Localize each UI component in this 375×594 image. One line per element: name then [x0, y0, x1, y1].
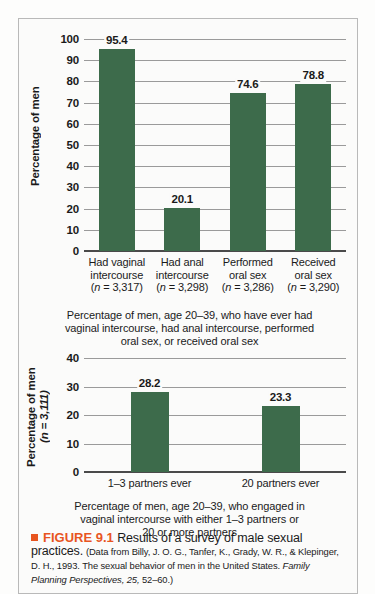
chart-bar	[230, 93, 266, 251]
chart-bar-value-label: 23.3	[268, 391, 294, 404]
chart-bar	[164, 208, 200, 251]
chart-y-tick-label: 40	[67, 352, 79, 364]
chart-y-tick-label: 20	[67, 203, 79, 215]
chart-bar-value-label: 95.4	[104, 34, 130, 47]
chart-y-tick-label: 10	[67, 224, 79, 236]
chart-y-tick-label: 50	[67, 139, 79, 151]
chart-gridline	[84, 415, 346, 416]
chart-bar-value-label: 28.2	[137, 377, 163, 390]
chart-bottom-plot-area: 01020304028.21–3 partners ever23.320 par…	[84, 358, 346, 472]
chart-y-tick-label: 30	[67, 181, 79, 193]
figure-inner: Percentage of men 0102030405060708090100…	[19, 19, 357, 593]
figure-source-suffix: 52–60.)	[139, 574, 173, 585]
figure-label: FIGURE 9.1	[43, 530, 114, 545]
chart-bar-value-label: 74.6	[235, 78, 261, 91]
chart-category-label: 20 partners ever	[242, 477, 320, 490]
chart-bar-value-label: 20.1	[169, 193, 195, 206]
chart-x-axis-line	[84, 471, 346, 473]
chart-y-tick-label: 0	[73, 245, 79, 257]
chart-caption-line: Percentage of men, age 20–39, who have e…	[37, 309, 342, 322]
chart-bar	[99, 49, 135, 251]
chart-caption-line: oral sex, or received oral sex	[37, 335, 342, 348]
chart-category-label: Had analintercourse(n = 3,298)	[156, 256, 209, 294]
chart-top-caption: Percentage of men, age 20–39, who have e…	[37, 309, 342, 348]
chart-y-tick-label: 100	[60, 33, 79, 45]
chart-bar	[262, 406, 300, 472]
chart-y-tick-label: 40	[67, 160, 79, 172]
chart-y-tick-label: 90	[67, 54, 79, 66]
chart-top-y-axis-label: Percentage of men	[29, 39, 42, 234]
chart-category-label: Performedoral sex(n = 3,286)	[222, 256, 274, 294]
chart-caption-line: vaginal intercourse with either 1–3 part…	[37, 513, 342, 526]
chart-y-tick-label: 60	[67, 118, 79, 130]
chart-bar	[131, 392, 169, 472]
figure-frame: Percentage of men 0102030405060708090100…	[18, 18, 358, 594]
chart-bar	[295, 84, 331, 251]
chart-gridline	[84, 387, 346, 388]
chart-category-label: Receivedoral sex(n = 3,290)	[287, 256, 339, 294]
chart-y-tick-label: 10	[67, 438, 79, 450]
figure-marker-icon	[31, 534, 38, 541]
chart-y-tick-label: 20	[67, 409, 79, 421]
chart-bottom-y-axis-label: Percentage of men(n = 3,111)	[25, 356, 51, 478]
chart-y-tick-label: 0	[73, 466, 79, 478]
chart-gridline	[84, 444, 346, 445]
chart-bar-value-label: 78.8	[300, 69, 326, 82]
chart-caption-line: Percentage of men, age 20–39, who engage…	[37, 500, 342, 513]
figure-caption: FIGURE 9.1 Results of a survey of male s…	[31, 531, 347, 586]
chart-y-tick-label: 80	[67, 75, 79, 87]
chart-y-tick-label: 70	[67, 97, 79, 109]
chart-top-plot-area: 010203040506070809010095.4Had vaginalint…	[84, 39, 346, 251]
chart-category-label: 1–3 partners ever	[108, 477, 192, 490]
chart-category-label: Had vaginalintercourse(n = 3,317)	[89, 256, 145, 294]
chart-top: Percentage of men 0102030405060708090100…	[19, 19, 359, 299]
chart-y-tick-label: 30	[67, 381, 79, 393]
chart-gridline	[84, 358, 346, 359]
chart-bottom: Percentage of men(n = 3,111) 01020304028…	[19, 354, 359, 494]
chart-caption-line: vaginal intercourse, had anal intercours…	[37, 322, 342, 335]
